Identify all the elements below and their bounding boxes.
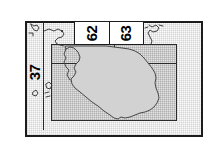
zone-cell-37: 37 xyxy=(27,55,43,89)
zone-divider-horizontal xyxy=(51,63,177,64)
zone-cell-63: 63 xyxy=(110,22,144,44)
zone-divider-62-63 xyxy=(114,44,115,64)
zone-cell-62: 62 xyxy=(75,22,110,44)
zone-label-37: 37 xyxy=(28,64,43,80)
zone-label-callout: 62 63 xyxy=(74,22,144,45)
zone-label-62: 62 xyxy=(84,25,99,41)
zone-label-63: 63 xyxy=(119,25,134,41)
index-map-figure: 62 63 37 xyxy=(0,0,222,148)
